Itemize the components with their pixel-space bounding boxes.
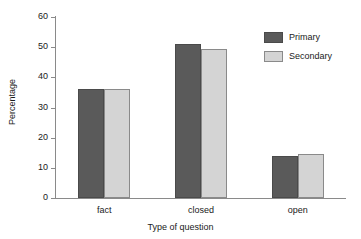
y-axis-tick-mark bbox=[51, 47, 56, 48]
bar-chart: 0102030405060 factclosedopen Percentage … bbox=[0, 0, 361, 239]
chart-legend: PrimarySecondary bbox=[264, 29, 332, 67]
y-axis-tick-mark bbox=[51, 198, 56, 199]
y-axis-title: Percentage bbox=[6, 52, 18, 152]
y-axis-tick: 10 bbox=[0, 168, 56, 169]
legend-swatch bbox=[264, 32, 283, 43]
y-axis-tick: 60 bbox=[0, 17, 56, 18]
y-axis-tick-label: 10 bbox=[38, 161, 48, 174]
bar-group bbox=[175, 17, 227, 198]
x-axis-title: Type of question bbox=[0, 221, 361, 233]
y-axis-tick-mark bbox=[51, 108, 56, 109]
legend-swatch bbox=[264, 51, 283, 62]
y-axis-tick-mark bbox=[51, 138, 56, 139]
y-axis-tick-mark bbox=[51, 17, 56, 18]
y-axis-tick-label: 30 bbox=[38, 101, 48, 114]
bar bbox=[78, 89, 104, 198]
y-axis-tick-label: 20 bbox=[38, 131, 48, 144]
y-axis-tick-mark bbox=[51, 77, 56, 78]
x-axis-tick-label: fact bbox=[64, 204, 144, 216]
y-axis-tick: 50 bbox=[0, 47, 56, 48]
y-axis-tick: 0 bbox=[0, 198, 56, 199]
y-axis-tick-label: 40 bbox=[38, 70, 48, 83]
legend-item: Secondary bbox=[264, 48, 332, 64]
bar bbox=[201, 49, 227, 198]
bar bbox=[298, 154, 324, 198]
y-axis-tick-label: 0 bbox=[43, 191, 48, 204]
y-axis-tick-mark bbox=[51, 168, 56, 169]
legend-label: Primary bbox=[289, 31, 320, 43]
bar-group bbox=[78, 17, 130, 198]
bar bbox=[175, 44, 201, 198]
bar bbox=[104, 89, 130, 198]
x-axis-tick-label: open bbox=[258, 204, 338, 216]
y-axis-tick-label: 50 bbox=[38, 40, 48, 53]
x-axis-line bbox=[55, 198, 346, 199]
legend-item: Primary bbox=[264, 29, 332, 45]
x-axis-tick-label: closed bbox=[161, 204, 241, 216]
bar bbox=[272, 156, 298, 198]
legend-label: Secondary bbox=[289, 50, 332, 62]
y-axis-tick-label: 60 bbox=[38, 10, 48, 23]
